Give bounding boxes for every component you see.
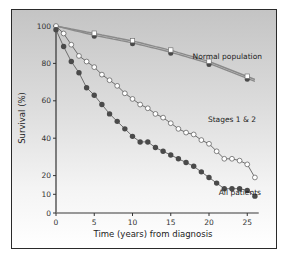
normal-open-marker xyxy=(245,74,249,78)
stages-1-2-marker xyxy=(199,138,204,143)
y-tick-label: 100 xyxy=(37,22,52,31)
stages-1-2-marker xyxy=(176,126,181,131)
normal-open-marker xyxy=(169,48,173,52)
all-patients-marker xyxy=(153,145,158,150)
label-all-patients: All patients xyxy=(219,188,261,197)
stages-1-2-marker xyxy=(184,130,189,135)
stages-1-2-marker xyxy=(138,102,143,107)
series-group xyxy=(53,24,257,199)
all-patients-marker xyxy=(122,126,127,131)
stages-1-2-marker xyxy=(153,111,158,116)
stages-1-2-marker xyxy=(61,31,66,36)
all-patients-marker xyxy=(69,59,74,64)
y-tick-label: 60 xyxy=(41,96,51,105)
all-patients-marker xyxy=(206,175,211,180)
stages-1-2-marker xyxy=(77,54,82,59)
label-stages-1-2: Stages 1 & 2 xyxy=(208,115,256,124)
all-patients-marker xyxy=(168,152,173,157)
stages-1-2-marker xyxy=(207,141,212,146)
all-patients-marker xyxy=(214,180,219,185)
all-patients-marker xyxy=(137,139,142,144)
stages-1-2-marker xyxy=(191,132,196,137)
all-patients-marker xyxy=(115,119,120,124)
normal-open-marker xyxy=(130,38,134,42)
stages-1-2-marker xyxy=(100,72,105,77)
all-patients-marker xyxy=(183,160,188,165)
stages-1-2-marker xyxy=(168,121,173,126)
stages-1-2-marker xyxy=(161,115,166,120)
x-axis-title: Time (years) from diagnosis xyxy=(93,229,213,239)
survival-chart: 010204060801000510152025 Time (years) fr… xyxy=(0,0,291,262)
all-patients-marker xyxy=(99,102,104,107)
stages-1-2-marker xyxy=(230,156,235,161)
all-patients-marker xyxy=(160,149,165,154)
y-tick-label: 80 xyxy=(41,59,51,68)
y-tick-label: 10 xyxy=(41,190,51,199)
x-tick-label: 20 xyxy=(204,218,214,227)
x-tick-label: 15 xyxy=(166,218,176,227)
all-patients-marker xyxy=(145,139,150,144)
all-patients-marker xyxy=(76,70,81,75)
all-patients-marker xyxy=(61,44,66,49)
stages-1-2-marker xyxy=(237,158,242,163)
all-patients-marker xyxy=(53,27,58,32)
stages-1-2-marker xyxy=(122,91,127,96)
all-patients-marker xyxy=(107,111,112,116)
y-tick-label: 20 xyxy=(41,171,51,180)
all-patients-marker xyxy=(130,134,135,139)
stages-1-2-marker xyxy=(214,149,219,154)
y-tick-label: 40 xyxy=(41,134,51,143)
stages-1-2-marker xyxy=(130,97,135,102)
stages-1-2-marker xyxy=(92,65,97,70)
stages-1-2-marker xyxy=(84,59,89,64)
stages-1-2-marker xyxy=(245,162,250,167)
all-patients-marker xyxy=(199,169,204,174)
all-patients-marker xyxy=(92,92,97,97)
stages-1-2-marker xyxy=(107,78,112,83)
stages-1-2-marker xyxy=(115,83,120,88)
normal-open-marker xyxy=(92,31,96,35)
y-tick-label: 0 xyxy=(46,209,51,218)
stages-1-2-marker xyxy=(145,106,150,111)
x-tick-label: 5 xyxy=(92,218,97,227)
stages-1-2-marker xyxy=(253,175,258,180)
all-patients-marker xyxy=(191,164,196,169)
all-patients-marker xyxy=(176,156,181,161)
stages-1-2-marker xyxy=(222,156,227,161)
all-patients-marker xyxy=(84,85,89,90)
x-tick-label: 25 xyxy=(242,218,252,227)
x-tick-label: 10 xyxy=(128,218,138,227)
label-normal-population: Normal population xyxy=(193,52,263,61)
x-tick-label: 0 xyxy=(54,218,59,227)
stages-1-2-marker xyxy=(69,42,74,47)
y-axis-title: Survival (%) xyxy=(17,92,27,144)
